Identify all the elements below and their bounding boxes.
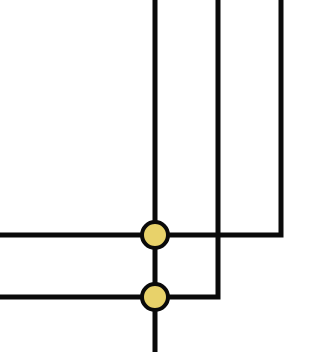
wire-diagram [0,0,322,352]
junction-lower [142,284,168,310]
junction-upper [142,222,168,248]
diagram-canvas [0,0,322,352]
